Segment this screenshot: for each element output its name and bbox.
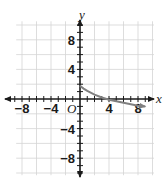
origin-label: O (67, 101, 77, 116)
y-tick-label: −8 (60, 151, 75, 166)
axes (5, 20, 154, 177)
coordinate-plane: −8−44884−4−8 x y O (0, 0, 165, 180)
y-tick-label: 4 (68, 62, 76, 77)
x-tick-label: 8 (134, 101, 141, 116)
x-axis-label: x (155, 91, 162, 106)
x-tick-label: −4 (44, 101, 60, 116)
x-tick-label: −8 (15, 101, 30, 116)
y-tick-label: −4 (60, 122, 76, 137)
y-tick-label: 8 (68, 33, 75, 48)
x-tick-label: 4 (105, 101, 113, 116)
y-axis-label: y (77, 7, 85, 22)
